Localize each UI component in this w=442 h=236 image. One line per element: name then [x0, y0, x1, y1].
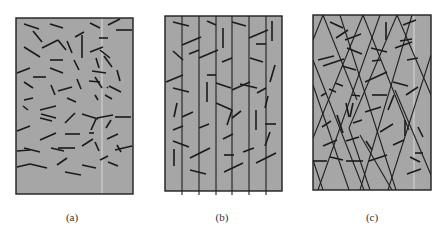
panel-b-label: (b): [202, 211, 242, 223]
panel-c-crossing-cracks: [313, 15, 431, 190]
fiber-segment: [372, 60, 381, 61]
panel-c-label: (c): [352, 211, 392, 223]
fiber-segment: [17, 150, 30, 151]
panel-a-random-fibers: [16, 18, 133, 194]
fiber-segment: [352, 95, 360, 96]
fiber-segment: [89, 81, 100, 82]
figure-canvas: [0, 0, 442, 236]
panel-background: [16, 18, 133, 194]
panel-a-label: (a): [52, 211, 92, 223]
panel-background: [313, 15, 431, 190]
panel-b-vertical-cracks: [165, 16, 282, 195]
fiber-segment: [107, 87, 108, 88]
